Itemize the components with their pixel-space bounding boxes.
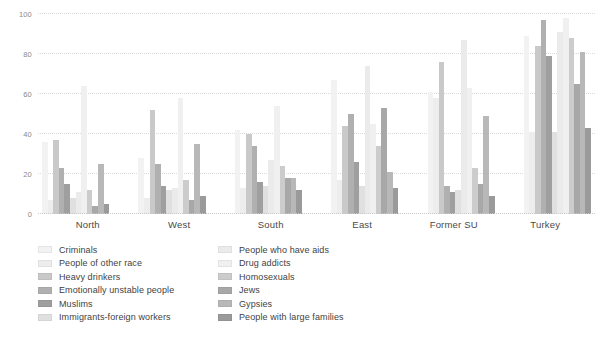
legend-item[interactable]: Criminals bbox=[38, 244, 218, 255]
legend-swatch bbox=[218, 287, 232, 294]
legend-swatch bbox=[218, 300, 232, 307]
legend-swatch bbox=[218, 260, 232, 267]
legend-item[interactable]: People who have aids bbox=[218, 244, 478, 255]
y-tick-label: 80 bbox=[23, 50, 32, 59]
legend-swatch bbox=[218, 246, 232, 253]
bar-groups bbox=[38, 14, 595, 214]
legend-swatch bbox=[38, 300, 52, 307]
legend-label: Heavy drinkers bbox=[59, 272, 120, 282]
legend-label: People with large families bbox=[239, 312, 344, 322]
bar-group-south bbox=[235, 14, 302, 214]
legend-swatch bbox=[38, 273, 52, 280]
legend-label: Drug addicts bbox=[239, 258, 291, 268]
legend-label: People who have aids bbox=[239, 245, 329, 255]
plot-area: 020406080100 bbox=[38, 14, 595, 214]
legend-label: Gypsies bbox=[239, 299, 272, 309]
legend-item[interactable]: Emotionally unstable people bbox=[38, 285, 218, 296]
bar-group-west bbox=[138, 14, 205, 214]
x-axis-label: South bbox=[225, 219, 317, 230]
legend-label: Immigrants-foreign workers bbox=[59, 312, 171, 322]
legend-item[interactable]: Muslims bbox=[38, 298, 218, 309]
bar-group-east bbox=[331, 14, 398, 214]
legend-swatch bbox=[38, 260, 52, 267]
legend-label: Homosexuals bbox=[239, 272, 295, 282]
legend-swatch bbox=[38, 246, 52, 253]
legend-label: Emotionally unstable people bbox=[59, 285, 174, 295]
legend-item[interactable]: Drug addicts bbox=[218, 258, 478, 269]
y-tick-label: 40 bbox=[23, 130, 32, 139]
legend-item[interactable]: Gypsies bbox=[218, 298, 478, 309]
x-axis-label: Former SU bbox=[408, 219, 500, 230]
legend-swatch bbox=[218, 314, 232, 321]
legend-item[interactable]: People of other race bbox=[38, 258, 218, 269]
bar bbox=[296, 190, 302, 214]
x-axis-label: North bbox=[42, 219, 134, 230]
bar bbox=[489, 196, 495, 214]
legend-item[interactable]: Immigrants-foreign workers bbox=[38, 312, 218, 323]
bar bbox=[585, 128, 591, 214]
chart-legend: CriminalsPeople of other raceHeavy drink… bbox=[38, 244, 578, 323]
legend-item[interactable]: Homosexuals bbox=[218, 271, 478, 282]
legend-item[interactable]: Jews bbox=[218, 285, 478, 296]
y-tick-label: 20 bbox=[23, 170, 32, 179]
legend-swatch bbox=[218, 273, 232, 280]
axis-baseline bbox=[38, 213, 595, 214]
legend-swatch bbox=[38, 287, 52, 294]
legend-column-left: CriminalsPeople of other raceHeavy drink… bbox=[38, 244, 218, 323]
grouped-bar-chart: 020406080100 NorthWestSouthEastFormer SU… bbox=[0, 0, 603, 338]
y-tick-label: 100 bbox=[19, 10, 32, 19]
legend-label: Jews bbox=[239, 285, 260, 295]
bar-group-north bbox=[42, 14, 109, 214]
legend-label: People of other race bbox=[59, 258, 142, 268]
bar-group-former-su bbox=[428, 14, 495, 214]
x-axis-label: West bbox=[134, 219, 226, 230]
bar bbox=[200, 196, 206, 214]
legend-label: Muslims bbox=[59, 299, 93, 309]
y-tick-label: 0 bbox=[28, 210, 32, 219]
x-axis-label: Turkey bbox=[500, 219, 592, 230]
legend-column-right: People who have aidsDrug addictsHomosexu… bbox=[218, 244, 478, 323]
bar-group-turkey bbox=[524, 14, 591, 214]
legend-label: Criminals bbox=[59, 245, 97, 255]
legend-item[interactable]: Heavy drinkers bbox=[38, 271, 218, 282]
x-axis-label: East bbox=[317, 219, 409, 230]
legend-item[interactable]: People with large families bbox=[218, 312, 478, 323]
bar bbox=[393, 188, 399, 214]
legend-swatch bbox=[38, 314, 52, 321]
y-tick-label: 60 bbox=[23, 90, 32, 99]
x-axis-labels: NorthWestSouthEastFormer SUTurkey bbox=[38, 219, 595, 230]
